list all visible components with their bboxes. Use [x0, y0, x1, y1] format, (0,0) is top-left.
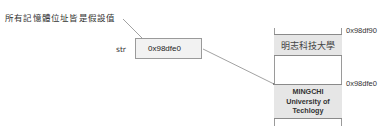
memory-note: 所有記憶體位址皆是假設值 — [5, 11, 115, 23]
variable-name: str — [116, 45, 126, 54]
address-label: 0x98dfe0 — [346, 79, 377, 88]
memory-cell-chinese: 明志科技大學 — [274, 34, 342, 56]
pointer-arrow — [203, 49, 274, 84]
cell-content: 明志科技大學 — [281, 39, 335, 52]
address-label: 0x98df90 — [346, 26, 377, 35]
cell-content-line: MINGCHI — [286, 87, 330, 97]
memory-cell-english: MINGCHI University of Techlogy — [274, 84, 342, 119]
cell-content-line: University of — [286, 97, 330, 107]
cell-content-line: Techlogy — [286, 106, 330, 116]
variable-value: 0x98dfe0 — [148, 44, 181, 53]
variable-box: 0x98dfe0 — [135, 38, 202, 59]
